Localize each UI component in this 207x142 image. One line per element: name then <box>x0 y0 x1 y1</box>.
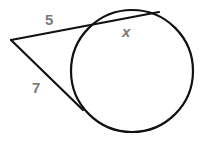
label-tangent: 7 <box>32 79 40 96</box>
secant-line <box>11 12 159 40</box>
circle <box>71 10 193 132</box>
label-secant-external: 5 <box>45 11 53 28</box>
label-secant-internal: x <box>121 23 131 40</box>
geometry-diagram: 5 x 7 <box>0 0 207 142</box>
